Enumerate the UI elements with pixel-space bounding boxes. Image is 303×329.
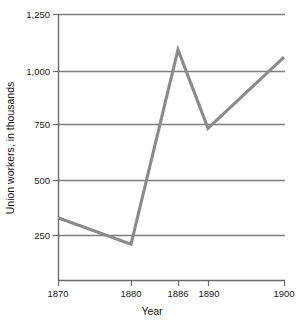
y-tick-label-1000: 1,000 [26, 66, 50, 77]
y-tick-label-1250: 1,250 [26, 9, 50, 20]
x-tick-label-1890: 1890 [198, 288, 219, 299]
x-tick-label-1870: 1870 [47, 288, 68, 299]
x-axis-title: Year [141, 305, 163, 317]
y-tick-label-500: 500 [34, 175, 50, 186]
chart-svg: 1,250 1,000 750 500 250 1870 1880 1886 1… [0, 0, 303, 329]
data-series-line [58, 50, 284, 245]
y-tick-label-750: 750 [34, 119, 50, 130]
x-tick-labels: 1870 1880 1886 1890 1900 [47, 288, 294, 299]
x-tick-label-1880: 1880 [120, 288, 141, 299]
y-tick-label-250: 250 [34, 230, 50, 241]
y-tick-marks [53, 15, 58, 236]
x-tick-marks [59, 281, 285, 286]
line-chart-figure: 1,250 1,000 750 500 250 1870 1880 1886 1… [0, 0, 303, 329]
x-tick-label-1886: 1886 [167, 288, 188, 299]
x-tick-label-1900: 1900 [273, 288, 294, 299]
y-axis-title: Union workers, in thousands [4, 82, 16, 215]
gridlines [58, 15, 285, 236]
y-tick-labels: 1,250 1,000 750 500 250 [26, 9, 50, 241]
